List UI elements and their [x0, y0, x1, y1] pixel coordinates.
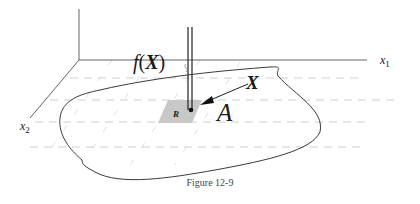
patch-r [158, 100, 202, 123]
arrowhead-icon [200, 96, 214, 105]
figure-12-9: x1 x2 f(X) X A R Figure 12-9 [0, 0, 420, 204]
figure-caption: Figure 12-9 [0, 177, 420, 188]
point-dot [189, 108, 194, 113]
region-a-label: A [215, 99, 233, 126]
grid-lines [30, 60, 400, 165]
x2-axis [30, 60, 79, 118]
region-a-outline [60, 67, 321, 180]
x1-label: x1 [379, 53, 390, 69]
function-column [185, 27, 193, 110]
x2-label: x2 [19, 119, 30, 135]
point-x-label: X [245, 72, 260, 93]
patch-r-label: R [172, 109, 179, 119]
function-label: f(X) [133, 51, 165, 74]
